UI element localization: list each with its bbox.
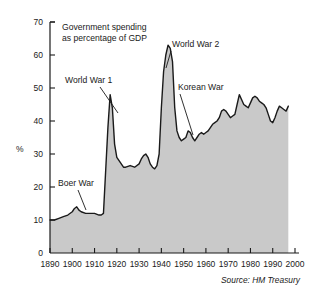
y-tick-label: 40 [34,116,44,126]
source-note: Source: HM Treasury [221,275,301,285]
x-tick-label: 1890 [41,259,60,269]
x-tick-label: 1970 [219,259,238,269]
x-tick-label: 1950 [174,259,193,269]
y-tick-label: 70 [34,17,44,27]
x-tick-label: 1930 [130,259,149,269]
annotation-label: Korean War [178,82,224,92]
annotation-label: World War 2 [172,39,219,49]
y-tick-label: 60 [34,50,44,60]
x-tick-label: 1920 [107,259,126,269]
x-tick-label: 1990 [263,259,282,269]
y-tick-label: 10 [34,215,44,225]
chart-title-line-1: Government spending [62,22,147,32]
x-tick-label: 1910 [85,259,104,269]
x-tick-label: 1980 [241,259,260,269]
x-tick-label: 2000 [286,259,305,269]
gdp-spending-area-chart: 0102030405060701890190019101920193019401… [0,0,320,297]
y-tick-label: 20 [34,182,44,192]
x-tick-label: 1960 [196,259,215,269]
annotation-label: World War 1 [65,75,112,85]
chart-container: 0102030405060701890190019101920193019401… [0,0,320,297]
y-tick-label: 30 [34,149,44,159]
y-axis-unit-label: % [16,144,24,154]
x-tick-label: 1900 [63,259,82,269]
annotation-label: Boer War [58,178,94,188]
chart-title-line-2: as percentage of GDP [62,33,147,43]
y-tick-label: 50 [34,83,44,93]
x-tick-label: 1940 [152,259,171,269]
y-tick-label: 0 [38,248,43,258]
